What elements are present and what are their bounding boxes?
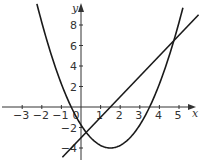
x-tick-label: −3 [13,109,29,122]
y-tick-label: 8 [70,19,77,32]
x-tick-label: 5 [175,109,182,122]
x-tick-label: 3 [135,109,142,122]
x-axis: −3−2−1012345 x [2,104,199,122]
y-tick-label: 6 [70,40,77,53]
y-axis: −4−22468 y [61,2,84,160]
straight-line [62,15,198,157]
x-axis-label: x [192,107,199,120]
x-tick-label: 2 [116,109,123,122]
parabola-curve [37,4,183,148]
chart: −3−2−1012345 x −4−22468 y [0,0,201,163]
x-tick-label: −2 [33,109,49,122]
x-tick-label: 4 [155,109,162,122]
y-axis-label: y [71,2,79,15]
y-tick-label: 4 [70,60,77,73]
y-axis-arrow-icon [78,3,84,12]
y-tick-label: 2 [70,81,77,94]
y-tick-label: −2 [61,122,77,135]
x-tick-label: −1 [52,109,68,122]
